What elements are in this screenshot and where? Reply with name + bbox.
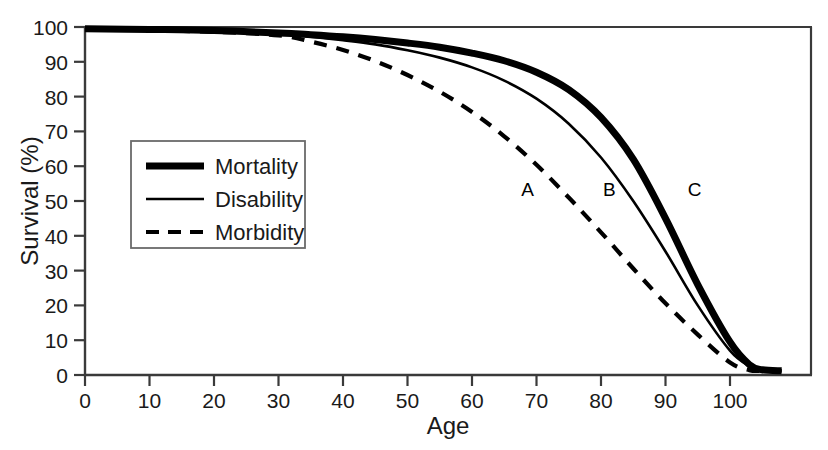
survival-curves-figure: 0102030405060708090100 01020304050607080… bbox=[0, 0, 828, 450]
x-tick-label-20: 20 bbox=[202, 389, 225, 412]
x-tick-label-90: 90 bbox=[654, 389, 677, 412]
x-axis-title: Age bbox=[427, 412, 470, 439]
y-axis-ticks bbox=[74, 27, 85, 375]
chart-canvas: 0102030405060708090100 01020304050607080… bbox=[0, 0, 828, 450]
y-tick-label-80: 80 bbox=[45, 86, 68, 109]
x-tick-label-30: 30 bbox=[267, 389, 290, 412]
curve-annotations-group: ABC bbox=[521, 179, 701, 200]
annotation-C: C bbox=[688, 179, 702, 200]
legend-label-morbidity: Morbidity bbox=[215, 220, 304, 245]
x-axis-ticks bbox=[85, 375, 730, 386]
legend-label-mortality: Mortality bbox=[215, 154, 298, 179]
x-axis-tick-labels: 0102030405060708090100 bbox=[79, 389, 747, 412]
y-tick-label-90: 90 bbox=[45, 51, 68, 74]
x-tick-label-100: 100 bbox=[712, 389, 747, 412]
y-tick-label-60: 60 bbox=[45, 155, 68, 178]
y-tick-label-30: 30 bbox=[45, 260, 68, 283]
y-tick-label-100: 100 bbox=[33, 16, 68, 39]
x-tick-label-10: 10 bbox=[138, 389, 161, 412]
legend: MortalityDisabilityMorbidity bbox=[131, 141, 305, 248]
x-tick-label-70: 70 bbox=[525, 389, 548, 412]
y-tick-label-50: 50 bbox=[45, 190, 68, 213]
legend-label-disability: Disability bbox=[215, 187, 303, 212]
annotation-B: B bbox=[603, 179, 616, 200]
y-tick-label-0: 0 bbox=[56, 364, 68, 387]
annotation-A: A bbox=[521, 179, 534, 200]
y-tick-label-20: 20 bbox=[45, 294, 68, 317]
x-tick-label-80: 80 bbox=[589, 389, 612, 412]
x-tick-label-40: 40 bbox=[331, 389, 354, 412]
x-tick-label-60: 60 bbox=[460, 389, 483, 412]
y-tick-label-10: 10 bbox=[45, 329, 68, 352]
legend-items: MortalityDisabilityMorbidity bbox=[146, 154, 304, 245]
x-tick-label-50: 50 bbox=[396, 389, 419, 412]
x-tick-label-0: 0 bbox=[79, 389, 91, 412]
y-tick-label-40: 40 bbox=[45, 225, 68, 248]
y-axis-title: Survival (%) bbox=[16, 136, 43, 265]
y-tick-label-70: 70 bbox=[45, 120, 68, 143]
